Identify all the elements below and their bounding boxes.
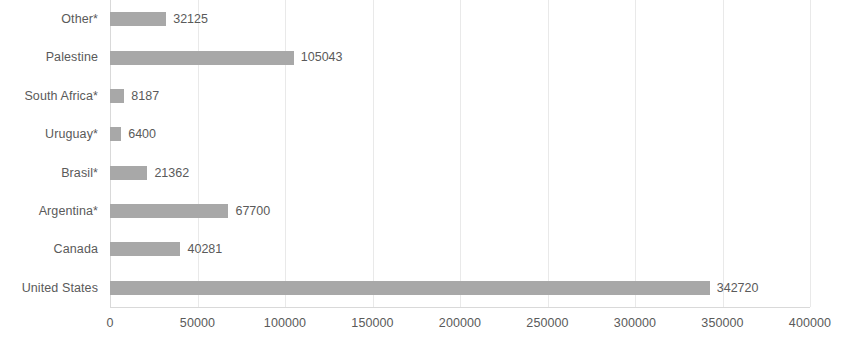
bar bbox=[110, 204, 228, 218]
bar bbox=[110, 51, 294, 65]
bar-row: Uruguay*6400 bbox=[0, 115, 844, 153]
x-tick-label: 350000 bbox=[701, 316, 743, 330]
category-label: South Africa* bbox=[6, 77, 98, 115]
x-tick-label: 100000 bbox=[264, 316, 306, 330]
category-axis-line bbox=[110, 307, 810, 308]
category-label: Palestine bbox=[6, 38, 98, 76]
bar bbox=[110, 166, 147, 180]
bar-row: Canada40281 bbox=[0, 230, 844, 268]
category-label: Argentina* bbox=[6, 192, 98, 230]
bar-value-label: 40281 bbox=[180, 230, 222, 268]
bar-row: Brasil*21362 bbox=[0, 154, 844, 192]
x-tick-label: 50000 bbox=[180, 316, 215, 330]
x-tick-label: 200000 bbox=[439, 316, 481, 330]
bar-chart: Other*32125Palestine105043South Africa*8… bbox=[0, 0, 844, 349]
category-label: Canada bbox=[6, 230, 98, 268]
bar-value-label: 67700 bbox=[228, 192, 270, 230]
x-tick-label: 400000 bbox=[789, 316, 831, 330]
category-label: United States bbox=[6, 269, 98, 307]
bar-value-label: 342720 bbox=[710, 269, 759, 307]
bar bbox=[110, 89, 124, 103]
bar-value-label: 8187 bbox=[124, 77, 159, 115]
bar bbox=[110, 127, 121, 141]
bar-row: Palestine105043 bbox=[0, 38, 844, 76]
category-label: Other* bbox=[6, 0, 98, 38]
bar bbox=[110, 281, 710, 295]
bar-row: Argentina*67700 bbox=[0, 192, 844, 230]
bar-row: United States342720 bbox=[0, 269, 844, 307]
bar-row: Other*32125 bbox=[0, 0, 844, 38]
bar-value-label: 105043 bbox=[294, 38, 343, 76]
category-label: Uruguay* bbox=[6, 115, 98, 153]
bar-value-label: 6400 bbox=[121, 115, 156, 153]
category-label: Brasil* bbox=[6, 154, 98, 192]
x-tick-label: 250000 bbox=[526, 316, 568, 330]
bar bbox=[110, 242, 180, 256]
bar-row: South Africa*8187 bbox=[0, 77, 844, 115]
bar-value-label: 32125 bbox=[166, 0, 208, 38]
bar-value-label: 21362 bbox=[147, 154, 189, 192]
x-tick-label: 150000 bbox=[351, 316, 393, 330]
x-tick-label: 0 bbox=[106, 316, 113, 330]
bar bbox=[110, 12, 166, 26]
x-tick-label: 300000 bbox=[614, 316, 656, 330]
